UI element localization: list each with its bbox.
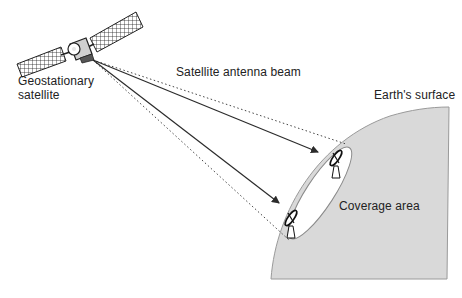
coverage-area-label: Coverage area: [339, 199, 420, 213]
beam-edge-lower: [93, 60, 289, 240]
earth-surface-label: Earth's surface: [374, 88, 455, 102]
satellite-coverage-diagram: [0, 0, 462, 298]
beam-label: Satellite antenna beam: [176, 65, 301, 79]
satellite-label: Geostationary satellite: [18, 74, 94, 102]
beam-arrow-lower: [93, 60, 279, 203]
beam-arrows: [93, 60, 318, 203]
earth-surface: [271, 107, 449, 279]
satellite-icon: [17, 12, 143, 77]
